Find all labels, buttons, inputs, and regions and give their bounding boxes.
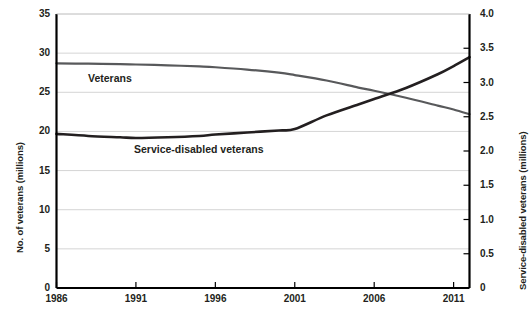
- plot-area: [0, 0, 529, 325]
- y-tick-label-right-2.0: 2.0: [480, 145, 510, 156]
- x-tick-label-2006: 2006: [344, 293, 404, 304]
- x-tick-label-2011: 2011: [424, 293, 484, 304]
- y-tick-label-right-4.0: 4.0: [480, 8, 510, 19]
- chart-figure: No. of veterans (millions) Service-disab…: [0, 0, 529, 325]
- y-tick-label-left-30: 30: [24, 47, 50, 58]
- axis-lines: [57, 14, 470, 288]
- x-tick-label-2001: 2001: [265, 293, 325, 304]
- x-tick-label-1996: 1996: [185, 293, 245, 304]
- y-tick-label-right-3.0: 3.0: [480, 77, 510, 88]
- y-tick-label-left-20: 20: [24, 125, 50, 136]
- y-tick-label-right-0: 0: [480, 282, 510, 293]
- tick-marks: [57, 48, 470, 288]
- x-tick-label-1991: 1991: [106, 293, 166, 304]
- series-paths: [57, 57, 470, 138]
- y-tick-label-right-2.5: 2.5: [480, 111, 510, 122]
- y-tick-label-right-1.5: 1.5: [480, 179, 510, 190]
- y-tick-label-left-10: 10: [24, 204, 50, 215]
- series-line-veterans: [57, 63, 470, 114]
- y-tick-label-right-3.5: 3.5: [480, 42, 510, 53]
- y-tick-label-left-0: 0: [24, 282, 50, 293]
- y-tick-label-left-35: 35: [24, 8, 50, 19]
- y-tick-label-left-25: 25: [24, 86, 50, 97]
- y-tick-label-left-15: 15: [24, 165, 50, 176]
- y-tick-label-left-5: 5: [24, 243, 50, 254]
- y-tick-label-right-0.5: 0.5: [480, 248, 510, 259]
- x-tick-label-1986: 1986: [27, 293, 87, 304]
- y-tick-label-right-1.0: 1.0: [480, 214, 510, 225]
